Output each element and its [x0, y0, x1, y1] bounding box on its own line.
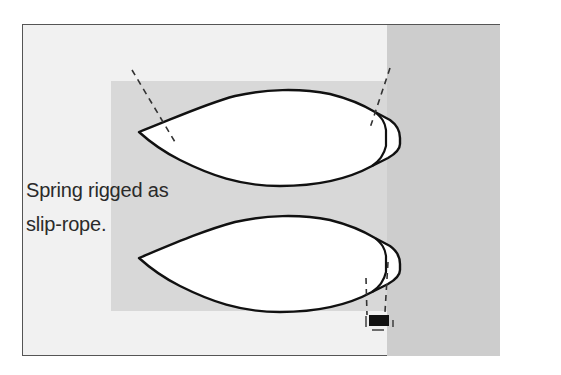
spring-rope-outer: [366, 278, 367, 315]
boat-hull-top: [139, 90, 400, 186]
boat-hull-bottom: [139, 216, 400, 312]
boat-diagram: [0, 0, 561, 375]
bollard-icon: [366, 315, 393, 330]
